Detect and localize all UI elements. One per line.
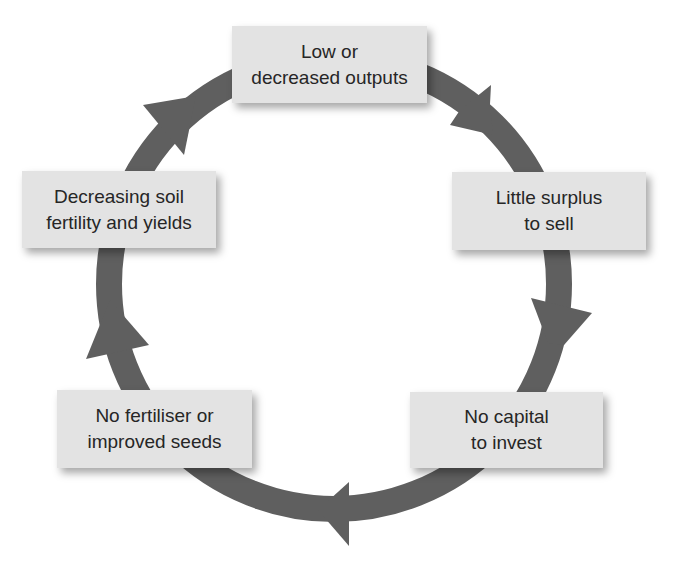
node-text: Low or (251, 39, 407, 65)
poverty-cycle-diagram: Low or decreased outputs Little surplus … (0, 0, 679, 568)
node-text: improved seeds (87, 429, 221, 455)
node-no-fertiliser: No fertiliser or improved seeds (57, 390, 252, 468)
node-text: No capital (464, 404, 549, 430)
arrowhead-icon (318, 482, 349, 546)
node-text: fertility and yields (46, 210, 192, 236)
node-no-capital: No capital to invest (410, 392, 603, 468)
node-low-outputs: Low or decreased outputs (232, 26, 427, 103)
arrowhead-icon (86, 300, 149, 359)
node-text: to invest (464, 430, 549, 456)
node-decreasing-fertility: Decreasing soil fertility and yields (22, 171, 216, 248)
node-text: to sell (496, 211, 603, 237)
node-text: decreased outputs (251, 65, 407, 91)
node-text: No fertiliser or (87, 403, 221, 429)
node-text: Little surplus (496, 185, 603, 211)
node-text: Decreasing soil (46, 184, 192, 210)
node-little-surplus: Little surplus to sell (452, 172, 646, 250)
